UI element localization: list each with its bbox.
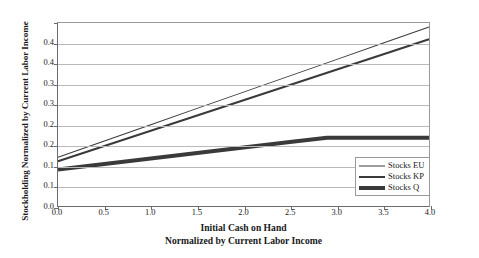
y-tick-label: 0.4 <box>28 38 54 46</box>
gridline <box>58 105 429 106</box>
legend-item[interactable]: Stocks Q <box>359 182 425 193</box>
legend-item[interactable]: Stocks KP <box>359 171 425 182</box>
x-tick-label: 4.0 <box>425 209 435 217</box>
x-tick-label: 2.5 <box>285 209 295 217</box>
x-axis-tick-labels: 0.00.51.01.52.02.53.03.54.0 <box>57 209 430 222</box>
y-tick-label: 0.2 <box>28 121 54 129</box>
y-tick-label: 0.3 <box>28 100 54 108</box>
y-axis-tick-labels: 0.00.10.10.20.20.30.30.40.4 <box>28 22 54 207</box>
x-tick-label: 1.5 <box>192 209 202 217</box>
legend-label: Stocks EU <box>388 161 425 170</box>
y-tick-label: 0.1 <box>28 162 54 170</box>
gridline <box>58 146 429 147</box>
x-tick-label: 0.5 <box>98 209 108 217</box>
x-tick-label: 2.0 <box>238 209 248 217</box>
y-tick-mark <box>54 64 58 65</box>
x-tick-label: 1.0 <box>145 209 155 217</box>
legend-swatch-icon <box>359 172 385 182</box>
y-tick-label: 0.0 <box>28 203 54 211</box>
gridline <box>58 126 429 127</box>
series-line-stocks-kp <box>58 39 429 161</box>
legend-swatch-icon <box>359 183 385 193</box>
y-tick-mark <box>54 146 58 147</box>
chart-legend: Stocks EUStocks KPStocks Q <box>355 157 430 196</box>
y-tick-mark <box>54 23 58 24</box>
chart-figure: Stockholding Normalized by Current Labor… <box>0 0 479 258</box>
gridline <box>58 85 429 86</box>
y-tick-mark <box>54 85 58 86</box>
legend-swatch-icon <box>359 161 385 171</box>
x-tick-label: 0.0 <box>52 209 62 217</box>
y-tick-mark <box>54 105 58 106</box>
x-axis-title: Initial Cash on Hand Normalized by Curre… <box>57 222 430 247</box>
y-tick-label: 0.3 <box>28 79 54 87</box>
legend-label: Stocks KP <box>388 172 424 181</box>
legend-item[interactable]: Stocks EU <box>359 160 425 171</box>
y-tick-label: 0.2 <box>28 141 54 149</box>
x-tick-label: 3.5 <box>378 209 388 217</box>
y-tick-label: 0.1 <box>28 182 54 190</box>
y-tick-mark <box>54 44 58 45</box>
y-tick-mark <box>54 187 58 188</box>
legend-label: Stocks Q <box>388 183 419 192</box>
x-tick-label: 3.0 <box>332 209 342 217</box>
x-axis-title-line-2: Normalized by Current Labor Income <box>57 235 430 248</box>
gridline <box>58 44 429 45</box>
gridline <box>58 64 429 65</box>
y-tick-mark <box>54 167 58 168</box>
y-tick-label: 0.4 <box>28 59 54 67</box>
y-tick-mark <box>54 126 58 127</box>
x-axis-title-line-1: Initial Cash on Hand <box>57 222 430 235</box>
